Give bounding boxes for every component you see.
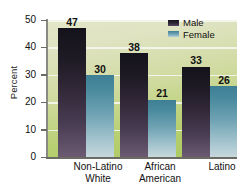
y-tick-label-20: 20: [10, 96, 36, 107]
legend-item-male: Male: [168, 17, 215, 29]
data-label-female-latino: 26: [207, 74, 241, 86]
bar-male-latino: [182, 67, 210, 157]
data-label-female-african-american: 21: [145, 87, 179, 99]
x-label-latino: Latino: [177, 161, 245, 173]
x-label-line1: Latino: [177, 161, 245, 173]
bar-female-non-latino-white: [86, 75, 114, 157]
legend: Male Female: [168, 17, 215, 40]
x-label-line2: American: [115, 173, 205, 185]
male-swatch-icon: [168, 20, 179, 26]
y-tick-40: [41, 47, 47, 49]
y-axis-title: Percent: [8, 43, 19, 123]
y-tick-10: [41, 129, 47, 131]
data-label-male-non-latino-white: 47: [55, 16, 89, 28]
y-tick-label-50: 50: [10, 14, 36, 25]
y-tick-label-0: 0: [10, 151, 36, 162]
bar-chart: Percent 50 40 30 20 10 0: [0, 0, 245, 194]
y-axis-line: [46, 19, 48, 158]
x-axis-line: [46, 157, 237, 159]
y-tick-50: [41, 20, 47, 22]
y-tick-30: [41, 74, 47, 76]
data-label-male-african-american: 38: [117, 41, 151, 53]
bar-female-latino: [210, 86, 237, 157]
data-label-female-non-latino-white: 30: [83, 63, 117, 75]
legend-label-female: Female: [183, 29, 215, 41]
bar-male-non-latino-white: [58, 28, 86, 157]
y-tick-label-10: 10: [10, 124, 36, 135]
y-tick-label-30: 30: [10, 69, 36, 80]
y-tick-label-40: 40: [10, 41, 36, 52]
y-tick-20: [41, 102, 47, 104]
data-label-male-latino: 33: [179, 54, 213, 66]
bar-female-african-american: [148, 100, 176, 158]
female-swatch-icon: [168, 31, 179, 37]
y-tick-0: [41, 157, 47, 159]
bar-male-african-american: [120, 53, 148, 157]
legend-item-female: Female: [168, 29, 215, 41]
legend-label-male: Male: [183, 17, 204, 29]
